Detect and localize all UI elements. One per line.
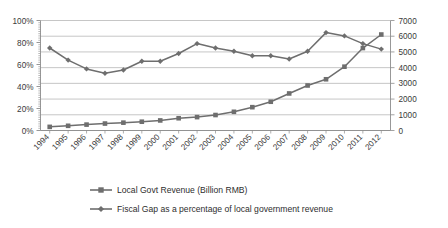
data-point-marker (213, 113, 218, 118)
data-point-marker (268, 99, 273, 104)
left-axis-tick-label: 100% (13, 17, 34, 26)
data-point-marker (342, 64, 347, 69)
right-axis-tick-label: 0 (399, 127, 404, 136)
left-axis-tick-label: 20% (17, 105, 33, 114)
legend-item[interactable]: Fiscal Gap as a percentage of local gove… (90, 204, 333, 214)
data-point-marker (103, 121, 108, 126)
data-point-marker (305, 83, 310, 88)
legend-item-label: Local Govt Revenue (Billion RMB) (117, 185, 248, 195)
right-axis-tick-label: 4000 (399, 64, 418, 73)
left-axis-tick-label: 0% (22, 127, 34, 136)
chart-container: 0%20%40%60%80%100% 010002000300040005000… (0, 0, 448, 228)
data-point-marker (361, 46, 366, 51)
data-point-marker (176, 116, 181, 121)
left-axis-tick-label: 40% (17, 83, 33, 92)
right-axis-tick-label: 1000 (399, 111, 418, 120)
legend-item-label: Fiscal Gap as a percentage of local gove… (117, 204, 333, 214)
data-point-marker (121, 120, 126, 125)
data-point-marker (66, 124, 71, 129)
data-point-marker (324, 77, 329, 82)
data-point-marker (250, 105, 255, 110)
data-point-marker (47, 125, 52, 130)
legend-square-marker-icon (98, 187, 103, 192)
left-axis-tick-label: 80% (17, 39, 33, 48)
data-point-marker (287, 91, 292, 96)
data-point-marker (158, 118, 163, 123)
left-axis-tick-label: 60% (17, 61, 33, 70)
right-axis-tick-label: 6000 (399, 32, 418, 41)
data-point-marker (84, 122, 89, 127)
right-axis-tick-label: 3000 (399, 79, 418, 88)
data-point-marker (195, 115, 200, 120)
data-point-marker (379, 32, 384, 37)
right-axis-tick-label: 5000 (399, 48, 418, 57)
data-point-marker (140, 119, 145, 124)
right-axis-tick-label: 2000 (399, 95, 418, 104)
right-axis-tick-label: 7000 (399, 17, 418, 26)
chart-canvas: 0%20%40%60%80%100% 010002000300040005000… (0, 0, 448, 228)
data-point-marker (232, 110, 237, 115)
